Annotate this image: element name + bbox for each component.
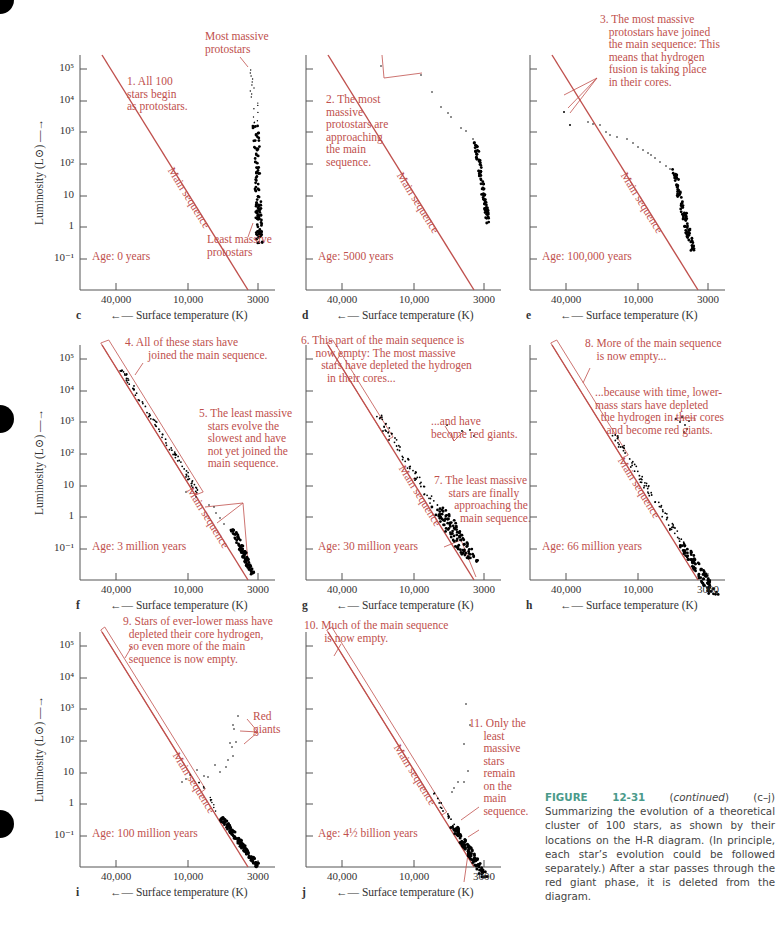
y-tick-label: 10 — [44, 478, 74, 490]
x-tick-label: 3000 — [233, 870, 283, 882]
caption-text: (c–j) Summarizing the evolution of a the… — [545, 791, 775, 902]
x-axis-label: ←— Surface temperature (K) — [110, 309, 248, 321]
x-tick-label: 10,000 — [163, 583, 213, 595]
y-tick-label: 10⁴ — [44, 93, 74, 105]
x-tick-label: 40,000 — [91, 583, 141, 595]
panel-letter: g — [302, 599, 308, 611]
hr-panel-f: 10⁵10⁴10³10²10110⁻¹Luminosity (L⊙) —→40,… — [80, 345, 275, 580]
x-tick-label: 10,000 — [389, 293, 439, 305]
x-tick-label: 3000 — [683, 583, 733, 595]
x-axis-label: ←— Surface temperature (K) — [560, 599, 698, 611]
y-tick-label: 10³ — [44, 124, 74, 136]
x-tick-label: 3000 — [459, 293, 509, 305]
x-tick-label: 40,000 — [541, 583, 591, 595]
panel-letter: d — [302, 309, 308, 321]
x-axis-label: ←— Surface temperature (K) — [336, 309, 474, 321]
x-tick-label: 40,000 — [91, 293, 141, 305]
hr-panel-j: 40,00010,0003000←— Surface temperature (… — [306, 632, 501, 867]
annotation: ...and have become red giants. — [431, 415, 518, 440]
annotation: 10. Much of the main sequence is now emp… — [304, 619, 448, 644]
y-tick-label: 10⁵ — [44, 351, 74, 363]
x-tick-label: 40,000 — [317, 583, 367, 595]
x-tick-label: 3000 — [233, 583, 283, 595]
x-tick-label: 10,000 — [613, 583, 663, 595]
hr-panel-h: 40,00010,0003000←— Surface temperature (… — [530, 345, 725, 580]
panel-letter: f — [76, 599, 80, 611]
binder-hole-icon — [0, 405, 14, 433]
annotation: 3. The most massive protostars have join… — [600, 13, 720, 88]
panel-letter: c — [76, 309, 81, 321]
annotation: Red giants — [253, 710, 280, 735]
x-tick-label: 40,000 — [541, 293, 591, 305]
x-axis-label: ←— Surface temperature (K) — [336, 599, 474, 611]
x-tick-label: 10,000 — [163, 293, 213, 305]
figure-number: FIGURE 12-31 — [545, 791, 645, 803]
x-tick-label: 10,000 — [389, 870, 439, 882]
y-tick-label: 10⁴ — [44, 670, 74, 682]
x-axis-label: ←— Surface temperature (K) — [110, 886, 248, 898]
age-label: Age: 30 million years — [318, 540, 418, 552]
x-tick-label: 40,000 — [317, 870, 367, 882]
figure-caption: FIGURE 12-31 (continued) (c–j) Summarizi… — [545, 790, 775, 904]
annotation: 5. The least massive stars evolve the sl… — [199, 407, 292, 470]
panel-letter: h — [526, 599, 532, 611]
hr-panel-g: 40,00010,0003000←— Surface temperature (… — [306, 345, 501, 580]
age-label: Age: 100 million years — [92, 827, 198, 839]
x-axis-label: ←— Surface temperature (K) — [336, 886, 474, 898]
annotation: 4. All of these stars have joined the ma… — [125, 336, 267, 361]
annotation: 8. More of the main sequence is now empt… — [585, 337, 722, 362]
annotation: Least massive protostars — [207, 233, 272, 258]
annotation: 7. The least massive stars are finally a… — [434, 474, 531, 524]
y-axis-label: Luminosity (L⊙) —→ — [32, 409, 46, 515]
binder-hole-icon — [0, 810, 14, 838]
x-tick-label: 3000 — [683, 293, 733, 305]
age-label: Age: 66 million years — [542, 540, 642, 552]
x-axis-label: ←— Surface temperature (K) — [560, 309, 698, 321]
annotation: 11. Only the least massive stars remain … — [469, 717, 528, 817]
y-tick-label: 1 — [44, 219, 74, 231]
y-tick-label: 10⁻¹ — [44, 251, 74, 264]
annotation: 9. Stars of ever-lower mass have deplete… — [123, 615, 273, 665]
hr-panel-d: 40,00010,0003000←— Surface temperature (… — [306, 55, 501, 290]
y-tick-label: 10² — [44, 156, 74, 168]
y-tick-label: 10 — [44, 765, 74, 777]
y-tick-label: 10³ — [44, 414, 74, 426]
y-tick-label: 10⁻¹ — [44, 828, 74, 841]
x-tick-label: 10,000 — [613, 293, 663, 305]
hr-panel-i: 10⁵10⁴10³10²10110⁻¹Luminosity (L⊙) —→40,… — [80, 632, 275, 867]
panel-letter: e — [526, 309, 531, 321]
annotation: ...because with time, lower- mass stars … — [595, 386, 724, 436]
x-tick-label: 10,000 — [389, 583, 439, 595]
age-label: Age: 0 years — [92, 250, 150, 262]
hr-panel-c: 10⁵10⁴10³10²10110⁻¹Luminosity (L⊙) —→40,… — [80, 55, 275, 290]
x-axis-label: ←— Surface temperature (K) — [110, 599, 248, 611]
y-tick-label: 10³ — [44, 701, 74, 713]
binder-hole-icon — [0, 0, 14, 14]
y-tick-label: 10⁵ — [44, 61, 74, 73]
hr-panel-e: 40,00010,0003000←— Surface temperature (… — [530, 55, 725, 290]
age-label: Age: 4½ billion years — [318, 827, 418, 839]
y-tick-label: 1 — [44, 796, 74, 808]
y-tick-label: 1 — [44, 509, 74, 521]
annotation: 6. This part of the main sequence is now… — [301, 334, 472, 384]
y-tick-label: 10⁴ — [44, 383, 74, 395]
y-axis-label: Luminosity (L⊙) —→ — [32, 696, 46, 802]
y-tick-label: 10² — [44, 733, 74, 745]
y-tick-label: 10⁻¹ — [44, 541, 74, 554]
panel-letter: j — [302, 886, 306, 898]
x-tick-label: 3000 — [459, 870, 509, 882]
caption-continued: continued — [674, 791, 725, 803]
age-label: Age: 100,000 years — [542, 250, 632, 262]
x-tick-label: 40,000 — [91, 870, 141, 882]
y-tick-label: 10⁵ — [44, 638, 74, 650]
x-tick-label: 3000 — [233, 293, 283, 305]
y-axis-label: Luminosity (L⊙) —→ — [32, 119, 46, 225]
annotation: 2. The most massive protostars are appro… — [326, 93, 388, 168]
y-tick-label: 10² — [44, 446, 74, 458]
panel-letter: i — [76, 886, 79, 898]
age-label: Age: 3 million years — [92, 540, 186, 552]
annotation: 1. All 100 stars begin as protostars. — [127, 75, 188, 113]
x-tick-label: 40,000 — [317, 293, 367, 305]
annotation: Most massive protostars — [205, 30, 269, 55]
x-tick-label: 10,000 — [163, 870, 213, 882]
